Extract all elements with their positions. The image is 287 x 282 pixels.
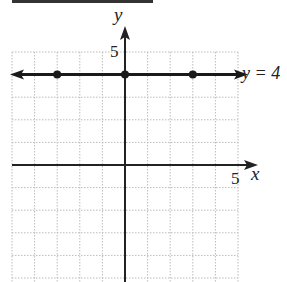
axes: [12, 26, 258, 282]
y-axis-label: y: [114, 4, 122, 26]
y-tick-label-5: 5: [110, 42, 119, 62]
x-axis-label: x: [251, 163, 259, 185]
coordinate-plane: [0, 0, 287, 282]
line-equation-label: y = 4: [242, 63, 280, 84]
line-y-equals-4: [10, 70, 248, 80]
x-tick-label-5: 5: [231, 169, 240, 189]
